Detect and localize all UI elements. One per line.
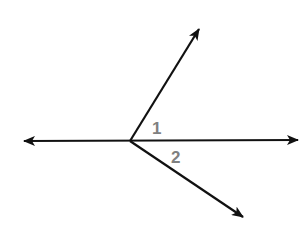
horizontal-line <box>24 140 298 141</box>
angle-diagram: 1 2 <box>0 0 303 228</box>
lower-ray <box>130 141 243 217</box>
upper-ray <box>130 29 199 141</box>
angle-2-label: 2 <box>171 148 180 167</box>
angle-1-label: 1 <box>152 119 161 138</box>
